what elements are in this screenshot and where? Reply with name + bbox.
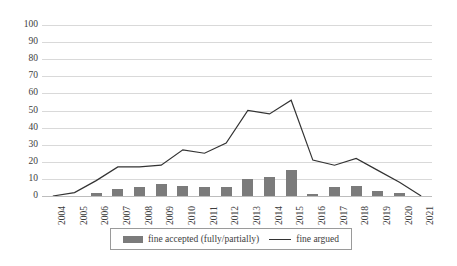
legend-label-fine-argued: fine argued (296, 234, 339, 244)
x-axis: 2004200520062007200820092010201120122013… (42, 197, 432, 227)
legend-entry-fine-argued: fine argued (269, 234, 339, 244)
x-axis-tick-label: 2015 (295, 215, 305, 225)
x-axis-tick-label: 2011 (209, 215, 219, 225)
legend-entry-fine-accepted: fine accepted (fully/partially) (123, 234, 259, 244)
x-axis-tick-label: 2020 (404, 215, 414, 225)
line-path (53, 100, 421, 196)
y-axis-tick-label: 60 (4, 88, 38, 98)
legend-bar-swatch-icon (123, 236, 143, 243)
x-axis-tick-label: 2004 (57, 215, 67, 225)
y-axis-tick-label: 0 (4, 191, 38, 201)
x-axis-tick-label: 2006 (100, 215, 110, 225)
legend-label-fine-accepted: fine accepted (fully/partially) (148, 234, 259, 244)
y-axis-tick-label: 40 (4, 123, 38, 133)
x-axis-tick-label: 2016 (317, 215, 327, 225)
x-axis-tick-label: 2019 (382, 215, 392, 225)
x-axis-tick-label: 2017 (339, 215, 349, 225)
y-axis-tick-label: 90 (4, 37, 38, 47)
x-axis-tick-label: 2021 (425, 215, 435, 225)
y-axis-tick-label: 80 (4, 54, 38, 64)
plot-area (42, 25, 432, 196)
y-axis: 0102030405060708090100 (0, 0, 38, 196)
x-axis-tick-label: 2005 (79, 215, 89, 225)
x-axis-tick-label: 2010 (187, 215, 197, 225)
x-axis-tick-label: 2008 (144, 215, 154, 225)
chart-legend: fine accepted (fully/partially) fine arg… (110, 228, 352, 250)
y-axis-tick-label: 50 (4, 106, 38, 116)
y-axis-tick-label: 70 (4, 71, 38, 81)
y-axis-tick-label: 20 (4, 157, 38, 167)
y-axis-tick-label: 100 (4, 20, 38, 30)
x-axis-tick-label: 2012 (230, 215, 240, 225)
x-axis-tick-label: 2007 (122, 215, 132, 225)
x-axis-tick-label: 2014 (274, 215, 284, 225)
line-series-fine-argued (42, 25, 432, 196)
legend-line-swatch-icon (269, 239, 291, 240)
chart-container: 0102030405060708090100 20042005200620072… (0, 0, 457, 266)
x-axis-tick-label: 2009 (165, 215, 175, 225)
y-axis-tick-label: 10 (4, 174, 38, 184)
x-axis-tick-label: 2013 (252, 215, 262, 225)
x-axis-tick-label: 2018 (360, 215, 370, 225)
y-axis-tick-label: 30 (4, 140, 38, 150)
